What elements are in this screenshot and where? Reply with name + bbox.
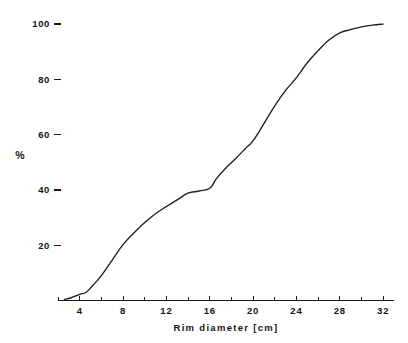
x-axis-tick-label: 28 (334, 305, 346, 316)
y-axis-tick-label: 100 (32, 18, 50, 29)
x-axis-title: Rim diameter [cm] (174, 322, 279, 333)
x-axis-tick-label: 20 (247, 305, 259, 316)
line-chart-canvas: 20406080100 48121620242832 % Rim diamete… (0, 0, 408, 343)
y-axis-tick-label: 40 (38, 184, 50, 195)
y-axis-tick-label-group: 20406080100 (32, 18, 50, 250)
x-axis-minor-tick-group (58, 296, 383, 300)
data-series-line (65, 24, 384, 299)
y-axis-tick-label: 60 (38, 129, 50, 140)
x-axis-tick-label: 4 (77, 305, 83, 316)
x-axis-tick-label-group: 48121620242832 (77, 305, 390, 316)
chart-figure: 20406080100 48121620242832 % Rim diamete… (0, 0, 408, 343)
x-axis-tick-label: 32 (377, 305, 389, 316)
x-axis-tick-label: 24 (290, 305, 302, 316)
x-axis-tick-label: 16 (204, 305, 216, 316)
y-axis-tick-label: 20 (38, 240, 50, 251)
y-axis-title: % (15, 149, 25, 161)
x-axis-tick-label: 12 (160, 305, 172, 316)
y-axis-tick-mark-group (54, 24, 61, 245)
x-axis-tick-label: 8 (120, 305, 126, 316)
y-axis-tick-label: 80 (38, 74, 50, 85)
